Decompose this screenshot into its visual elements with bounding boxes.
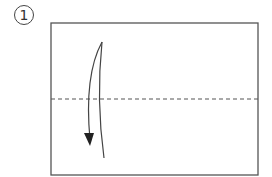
- fold-diagram: [0, 0, 272, 177]
